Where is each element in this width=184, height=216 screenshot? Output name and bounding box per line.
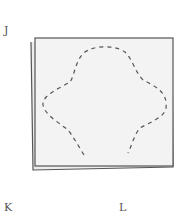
folded-paper-diagram — [0, 0, 184, 216]
paper-front-layer — [35, 38, 173, 166]
